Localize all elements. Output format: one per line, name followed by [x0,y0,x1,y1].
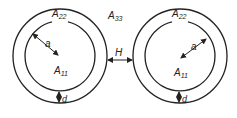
left-cylinder [13,9,107,103]
outer-region-label: A33 [107,10,123,22]
left-radius-label: a [45,38,51,49]
left-outer-circle [13,9,107,103]
two-coated-cylinders-diagram: A22 A22 A33 A11 A11 a a d d H [0,0,237,118]
left-inner-label: A11 [53,65,68,77]
left-inner-circle [25,22,95,91]
right-inner-label: A11 [173,67,188,79]
right-outer-circle [133,9,227,103]
right-inner-circle [145,22,215,91]
right-radius-label: a [191,41,197,52]
right-cylinder [133,9,227,103]
gap-label: H [115,47,123,58]
